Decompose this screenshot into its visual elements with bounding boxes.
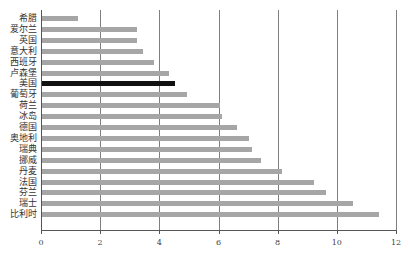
- category-label: 美国: [19, 78, 37, 88]
- category-label: 爱尔兰: [10, 24, 37, 34]
- bar: [42, 158, 261, 163]
- x-tick: [41, 230, 42, 234]
- category-label: 法国: [19, 177, 37, 187]
- category-label: 卢森堡: [10, 68, 37, 78]
- gridline: [337, 10, 338, 230]
- bar: [42, 103, 220, 108]
- x-tick: [219, 230, 220, 234]
- x-tick-label: 0: [38, 238, 43, 247]
- category-label: 比利时: [10, 209, 37, 219]
- category-label: 荷兰: [19, 100, 37, 110]
- category-label: 奥地利: [10, 133, 37, 143]
- bar: [42, 212, 379, 217]
- bar: [42, 125, 237, 130]
- x-tick-label: 12: [391, 238, 401, 247]
- x-tick: [278, 230, 279, 234]
- y-axis: [41, 10, 42, 230]
- category-label: 瑞士: [19, 198, 37, 208]
- bar: [42, 114, 222, 119]
- x-tick: [100, 230, 101, 234]
- gridline: [159, 10, 160, 230]
- bar: [42, 136, 249, 141]
- plot-area: [41, 10, 396, 230]
- x-tick-label: 10: [332, 238, 342, 247]
- bar: [42, 92, 187, 97]
- category-label: 葡萄牙: [10, 89, 37, 99]
- x-tick-label: 6: [216, 238, 221, 247]
- category-label: 芬兰: [19, 187, 37, 197]
- bar: [42, 38, 137, 43]
- bar: [42, 180, 314, 185]
- bar: [42, 16, 78, 21]
- category-label: 意大利: [10, 46, 37, 56]
- bar: [42, 147, 252, 152]
- category-label: 挪威: [19, 155, 37, 165]
- bar: [42, 71, 169, 76]
- category-label: 冰岛: [19, 111, 37, 121]
- category-label: 瑞典: [19, 144, 37, 154]
- bar: [42, 27, 137, 32]
- x-tick: [159, 230, 160, 234]
- x-tick-label: 8: [275, 238, 280, 247]
- gridline: [100, 10, 101, 230]
- bar: [42, 169, 282, 174]
- category-label: 丹麦: [19, 166, 37, 176]
- bar: [42, 190, 326, 195]
- x-tick: [337, 230, 338, 234]
- x-tick-label: 2: [98, 238, 103, 247]
- gridline: [278, 10, 279, 230]
- x-tick: [396, 230, 397, 234]
- category-label: 西班牙: [10, 57, 37, 67]
- category-label: 德国: [19, 122, 37, 132]
- category-label: 希腊: [19, 13, 37, 23]
- bar: [42, 60, 154, 65]
- bar: [42, 81, 175, 86]
- bar: [42, 49, 143, 54]
- bar-chart: 024681012希腊爱尔兰英国意大利西班牙卢森堡美国葡萄牙荷兰冰岛德国奥地利瑞…: [0, 0, 410, 259]
- x-tick-label: 4: [157, 238, 162, 247]
- gridline: [396, 10, 397, 230]
- bar: [42, 201, 353, 206]
- gridline: [219, 10, 220, 230]
- category-label: 英国: [19, 35, 37, 45]
